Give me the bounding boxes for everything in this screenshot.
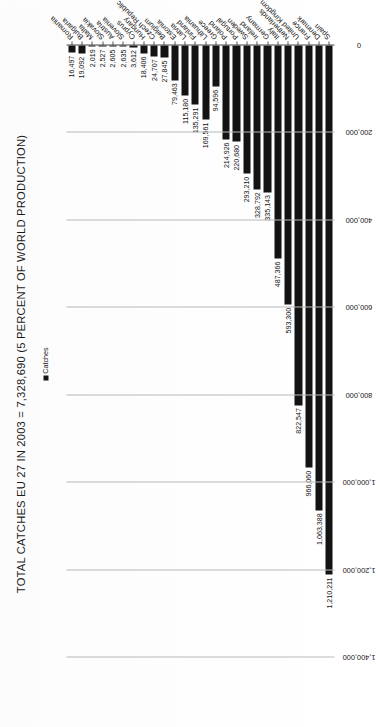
bar-row: 214,926 bbox=[220, 45, 231, 657]
bar[interactable] bbox=[274, 45, 281, 258]
gridline bbox=[66, 131, 334, 132]
bar[interactable] bbox=[294, 45, 301, 405]
legend-label-catches: Catches bbox=[41, 347, 50, 373]
gridline bbox=[66, 306, 334, 307]
bar-value-label: 2,605 bbox=[108, 49, 116, 67]
value-axis-line bbox=[66, 44, 334, 45]
bar-row: 24,707 bbox=[148, 45, 159, 657]
bar[interactable] bbox=[78, 45, 85, 53]
bar-value-label: 822,547 bbox=[294, 408, 302, 434]
gridline bbox=[66, 219, 334, 220]
bar-row: 487,366 bbox=[272, 45, 283, 657]
bar-value-label: 966,060 bbox=[304, 470, 312, 496]
bar-row: 79,463 bbox=[169, 45, 180, 657]
bar-row: 115,180 bbox=[179, 45, 190, 657]
bar-value-label: 19,092 bbox=[77, 56, 85, 78]
value-tick-label: 1,400,000 bbox=[333, 653, 380, 662]
bar-value-label: 135,291 bbox=[191, 107, 199, 133]
bar-value-label: 220,680 bbox=[232, 144, 240, 170]
plot-area: 1,210,2111,063,388966,060822,547593,3004… bbox=[66, 45, 334, 657]
bar-row: 94,596 bbox=[210, 45, 221, 657]
bar[interactable] bbox=[140, 45, 147, 53]
bar[interactable] bbox=[263, 45, 270, 192]
bar[interactable] bbox=[284, 45, 291, 304]
gridline bbox=[66, 569, 334, 570]
bar-row: 593,300 bbox=[282, 45, 293, 657]
bar-value-label: 335,143 bbox=[263, 195, 271, 221]
bar-value-label: 2,019 bbox=[88, 49, 96, 67]
bar-row: 3,612 bbox=[128, 45, 139, 657]
bar[interactable] bbox=[202, 45, 209, 119]
bar-value-label: 169,561 bbox=[201, 122, 209, 148]
bar-value-label: 115,180 bbox=[181, 98, 189, 123]
value-tick-label: 0 bbox=[333, 41, 380, 50]
bar-value-label: 27,845 bbox=[160, 60, 168, 82]
bar-value-label: 328,792 bbox=[253, 192, 261, 218]
bar-row: 2,605 bbox=[107, 45, 118, 657]
bar[interactable] bbox=[160, 45, 167, 57]
gridline bbox=[66, 481, 334, 482]
bar[interactable] bbox=[150, 45, 157, 56]
bar-row: 220,680 bbox=[231, 45, 242, 657]
bar-row: 966,060 bbox=[303, 45, 314, 657]
bar-row: 335,143 bbox=[262, 45, 273, 657]
bar-value-label: 16,497 bbox=[67, 55, 75, 77]
legend-swatch-catches bbox=[43, 375, 48, 380]
bar-row: 293,210 bbox=[241, 45, 252, 657]
gridline bbox=[66, 394, 334, 395]
bar-row: 2,019 bbox=[86, 45, 97, 657]
bar-row: 135,291 bbox=[189, 45, 200, 657]
bar-value-label: 1,063,388 bbox=[315, 513, 323, 545]
bar-rows: 1,210,2111,063,388966,060822,547593,3004… bbox=[66, 45, 334, 657]
bar[interactable] bbox=[222, 45, 229, 139]
bar-value-label: 214,926 bbox=[222, 142, 230, 168]
bar-value-label: 2,635 bbox=[119, 49, 127, 67]
bar[interactable] bbox=[315, 45, 322, 510]
bar[interactable] bbox=[325, 45, 332, 574]
value-tick-label: 1,000,000 bbox=[333, 478, 380, 487]
bar-value-label: 18,406 bbox=[139, 56, 147, 78]
bar-row: 19,092 bbox=[76, 45, 87, 657]
bar[interactable] bbox=[305, 45, 312, 467]
value-tick-label: 800,000 bbox=[333, 390, 380, 399]
bar-value-label: 94,596 bbox=[211, 89, 219, 111]
gridline bbox=[66, 656, 334, 657]
bar-row: 18,406 bbox=[138, 45, 149, 657]
chart-title: TOTAL CATCHES EU 27 IN 2003 = 7,328,690 … bbox=[14, 0, 26, 727]
bar-value-label: 293,210 bbox=[242, 176, 250, 202]
value-tick-label: 200,000 bbox=[333, 128, 380, 137]
bar-row: 1,063,388 bbox=[313, 45, 324, 657]
bar-value-label: 593,300 bbox=[284, 307, 292, 333]
bar-value-label: 24,707 bbox=[150, 59, 158, 81]
value-tick-label: 400,000 bbox=[333, 215, 380, 224]
bar-row: 328,792 bbox=[251, 45, 262, 657]
bar-value-label: 487,366 bbox=[273, 261, 281, 287]
value-tick-label: 600,000 bbox=[333, 303, 380, 312]
bar[interactable] bbox=[68, 45, 75, 52]
bar-row: 822,547 bbox=[292, 45, 303, 657]
bar-row: 2,527 bbox=[97, 45, 108, 657]
bar[interactable] bbox=[181, 45, 188, 95]
bar[interactable] bbox=[212, 45, 219, 86]
bar-row: 27,845 bbox=[158, 45, 169, 657]
bar-value-label: 2,527 bbox=[98, 49, 106, 67]
value-tick-label: 1,200,000 bbox=[333, 565, 380, 574]
bar[interactable] bbox=[171, 45, 178, 80]
bar-value-label: 1,210,211 bbox=[325, 577, 333, 608]
bar[interactable] bbox=[191, 45, 198, 104]
bar-value-label: 3,612 bbox=[129, 50, 137, 68]
bar-row: 169,561 bbox=[200, 45, 211, 657]
bar[interactable] bbox=[253, 45, 260, 189]
bar[interactable] bbox=[232, 45, 239, 141]
bar-row: 2,635 bbox=[117, 45, 128, 657]
bar-value-label: 79,463 bbox=[170, 83, 178, 105]
chart-legend: Catches bbox=[40, 0, 50, 727]
bar[interactable] bbox=[243, 45, 250, 173]
bar-row: 16,497 bbox=[66, 45, 77, 657]
